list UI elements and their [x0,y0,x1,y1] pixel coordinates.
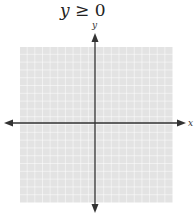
x-axis-right-arrow-icon [177,120,186,127]
y-axis-up-arrow-icon [92,33,99,42]
grid-area [20,47,173,203]
coordinate-grid: x y [0,0,195,214]
x-axis-left-arrow-icon [4,120,13,127]
x-axis-label: x [188,118,193,128]
y-axis-down-arrow-icon [92,204,99,213]
y-axis-label: y [91,20,98,30]
